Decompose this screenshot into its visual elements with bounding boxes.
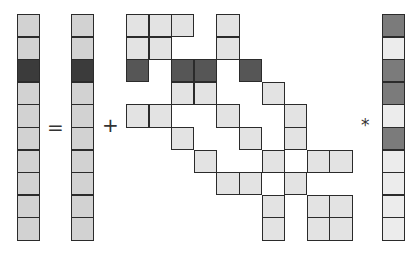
matrix-nonzero-cell: [149, 14, 172, 37]
matrix-nonzero-cell: [262, 195, 285, 218]
matrix-nonzero-cell: [149, 104, 172, 127]
matrix-nonzero-cell: [307, 195, 330, 218]
matrix-nonzero-cell: [171, 82, 194, 105]
matrix-nonzero-cell: [126, 59, 149, 82]
vector-x-cell: [382, 217, 405, 240]
matrix-nonzero-cell: [329, 195, 352, 218]
vector-y-in-cell: [71, 195, 94, 218]
matrix-nonzero-cell: [284, 104, 307, 127]
equals-sign: =: [47, 117, 64, 137]
vector-y-in-cell: [71, 217, 94, 240]
matrix-nonzero-cell: [329, 217, 352, 240]
vector-x-cell: [382, 104, 405, 127]
matrix-nonzero-cell: [239, 172, 262, 195]
plus-sign: +: [102, 115, 119, 135]
matrix-nonzero-cell: [194, 59, 217, 82]
vector-y-out-cell: [17, 37, 40, 60]
matrix-nonzero-cell: [262, 150, 285, 173]
vector-x-cell: [382, 195, 405, 218]
matrix-nonzero-cell: [216, 172, 239, 195]
vector-y-in-cell: [71, 14, 94, 37]
vector-y-in-cell: [71, 172, 94, 195]
vector-x-cell: [382, 14, 405, 37]
multiply-sign: *: [361, 117, 370, 134]
vector-y-out-cell: [17, 59, 40, 82]
vector-x-cell: [382, 150, 405, 173]
matrix-nonzero-cell: [216, 37, 239, 60]
matrix-nonzero-cell: [126, 37, 149, 60]
vector-x-cell: [382, 37, 405, 60]
spmv-diagram: = + *: [0, 0, 419, 255]
vector-y-out-cell: [17, 127, 40, 150]
vector-y-out-cell: [17, 172, 40, 195]
vector-x-cell: [382, 172, 405, 195]
vector-x-cell: [382, 127, 405, 150]
matrix-nonzero-cell: [284, 172, 307, 195]
matrix-nonzero-cell: [239, 127, 262, 150]
matrix-nonzero-cell: [216, 104, 239, 127]
matrix-nonzero-cell: [262, 217, 285, 240]
vector-y-out-cell: [17, 195, 40, 218]
matrix-nonzero-cell: [126, 14, 149, 37]
vector-y-out-cell: [17, 82, 40, 105]
matrix-nonzero-cell: [171, 127, 194, 150]
vector-y-in-cell: [71, 104, 94, 127]
matrix-nonzero-cell: [194, 82, 217, 105]
vector-y-in-cell: [71, 59, 94, 82]
vector-x-cell: [382, 59, 405, 82]
vector-y-in-cell: [71, 127, 94, 150]
matrix-nonzero-cell: [262, 82, 285, 105]
matrix-nonzero-cell: [239, 59, 262, 82]
vector-y-out-cell: [17, 104, 40, 127]
matrix-nonzero-cell: [171, 59, 194, 82]
vector-x-cell: [382, 82, 405, 105]
matrix-nonzero-cell: [307, 150, 330, 173]
matrix-nonzero-cell: [194, 150, 217, 173]
matrix-nonzero-cell: [149, 37, 172, 60]
vector-y-in-cell: [71, 150, 94, 173]
vector-y-in-cell: [71, 37, 94, 60]
matrix-nonzero-cell: [126, 104, 149, 127]
matrix-nonzero-cell: [171, 14, 194, 37]
vector-y-out-cell: [17, 150, 40, 173]
matrix-nonzero-cell: [216, 14, 239, 37]
vector-y-out-cell: [17, 217, 40, 240]
matrix-nonzero-cell: [284, 127, 307, 150]
vector-y-out-cell: [17, 14, 40, 37]
matrix-nonzero-cell: [307, 217, 330, 240]
vector-y-in-cell: [71, 82, 94, 105]
matrix-nonzero-cell: [329, 150, 352, 173]
